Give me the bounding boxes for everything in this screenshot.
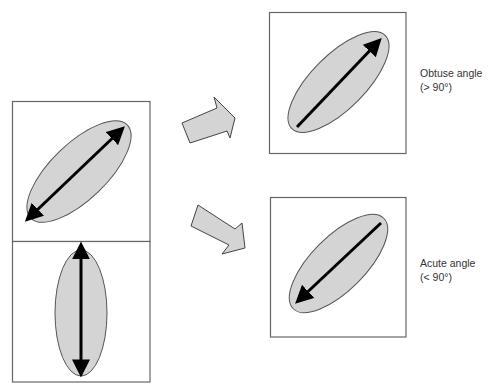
result-panel-obtuse — [270, 13, 407, 154]
obtuse-angle-label: Obtuse angle (> 90°) — [420, 66, 482, 94]
acute-angle-detail: (< 90°) — [420, 270, 475, 284]
obtuse-angle-detail: (> 90°) — [420, 80, 482, 94]
obtuse-angle-title: Obtuse angle — [420, 66, 482, 80]
acute-angle-label: Acute angle (< 90°) — [420, 256, 475, 284]
diagram-canvas — [0, 0, 489, 390]
acute-angle-title: Acute angle — [420, 256, 475, 270]
transition-arrow-up-right-icon — [182, 97, 235, 143]
source-panel-bottom — [13, 242, 151, 383]
result-panel-acute — [271, 198, 407, 338]
source-panel-top — [11, 102, 150, 242]
transition-arrow-down-right-icon — [191, 205, 245, 254]
